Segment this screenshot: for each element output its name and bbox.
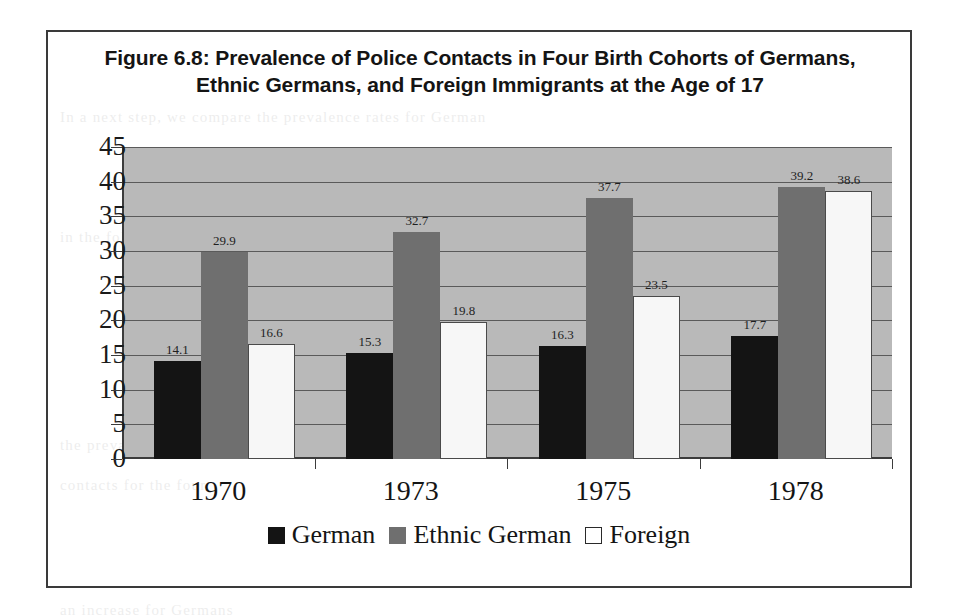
y-axis-tick-mark: [111, 147, 122, 148]
bar-foreign-1973: [440, 322, 487, 459]
x-axis-tick-label: 1970: [122, 477, 315, 505]
y-axis-tick-mark: [111, 355, 122, 356]
bar-value-label: 38.6: [817, 173, 880, 186]
y-axis-tick-mark: [111, 320, 122, 321]
x-axis-tick-mark: [700, 459, 701, 469]
y-axis-tick-mark: [111, 424, 122, 425]
x-axis-tick-label: 1978: [700, 477, 893, 505]
bar-foreign-1978: [825, 191, 872, 459]
bar-value-label: 23.5: [625, 278, 688, 291]
x-axis-tick-mark: [892, 459, 893, 469]
bar-value-label: 32.7: [385, 214, 448, 227]
bar-german-1970: [154, 361, 201, 459]
legend-item-ethnic-german: Ethnic German: [389, 522, 571, 548]
x-axis-tick-mark: [315, 459, 316, 469]
legend-swatch-icon: [585, 527, 602, 544]
legend-item-german: German: [268, 522, 376, 548]
chart-legend: GermanEthnic GermanForeign: [48, 522, 910, 548]
bar-foreign-1975: [633, 296, 680, 459]
bar-ethnic-german-1973: [393, 232, 440, 459]
bar-german-1978: [731, 336, 778, 459]
bar-german-1973: [346, 353, 393, 459]
bar-value-label: 15.3: [338, 335, 401, 348]
bar-value-label: 14.1: [146, 343, 209, 356]
bar-ethnic-german-1975: [586, 198, 633, 459]
y-axis-tick-mark: [111, 286, 122, 287]
figure-title: Figure 6.8: Prevalence of Police Contact…: [70, 44, 890, 98]
legend-swatch-icon: [389, 527, 406, 544]
y-axis-tick-mark: [111, 459, 122, 460]
bar-value-label: 37.7: [578, 180, 641, 193]
x-axis-tick-label: 1973: [315, 477, 508, 505]
bar-german-1975: [539, 346, 586, 459]
bar-value-label: 29.9: [193, 234, 256, 247]
bar-value-label: 16.6: [240, 326, 303, 339]
legend-item-foreign: Foreign: [585, 522, 690, 548]
plot-region: 14.129.916.615.332.719.816.337.723.517.7…: [122, 147, 892, 459]
y-axis-tick-mark: [111, 251, 122, 252]
bleed-line: an increase for Germans: [60, 595, 234, 616]
bar-value-label: 19.8: [432, 304, 495, 317]
figure-frame: Figure 6.8: Prevalence of Police Contact…: [46, 30, 912, 588]
legend-label: German: [292, 522, 376, 548]
bar-ethnic-german-1970: [201, 252, 248, 459]
bar-value-label: 16.3: [531, 328, 594, 341]
x-axis-tick-label: 1975: [507, 477, 700, 505]
legend-swatch-icon: [268, 527, 285, 544]
y-axis-tick-mark: [111, 390, 122, 391]
x-axis-tick-mark: [507, 459, 508, 469]
bar-ethnic-german-1978: [778, 187, 825, 459]
bar-value-label: 17.7: [723, 318, 786, 331]
legend-label: Foreign: [609, 522, 690, 548]
bar-foreign-1970: [248, 344, 295, 459]
y-axis-tick-mark: [111, 216, 122, 217]
bars-layer: 14.129.916.615.332.719.816.337.723.517.7…: [122, 147, 892, 459]
y-axis-tick-mark: [111, 182, 122, 183]
legend-label: Ethnic German: [413, 522, 571, 548]
